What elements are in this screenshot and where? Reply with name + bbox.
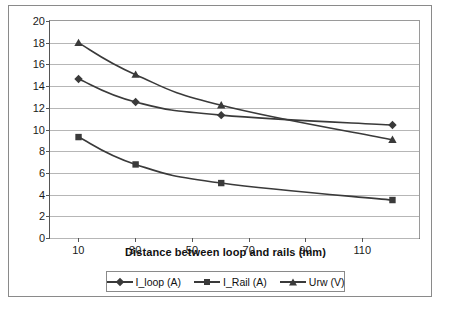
page-bottom-text (10, 304, 310, 309)
ytick-label-16: 16 (33, 59, 45, 70)
legend-label-i-rail: I_Rail (A) (223, 276, 267, 288)
ytick-label-10: 10 (33, 124, 45, 135)
chart-legend: I_loop (A) I_Rail (A) Urw (V) (106, 271, 345, 292)
series-2 (74, 39, 396, 143)
legend-label-urw: Urw (V) (309, 276, 345, 288)
ytick-label-4: 4 (39, 189, 45, 200)
ytick-label-6: 6 (39, 167, 45, 178)
ytick-label-8: 8 (39, 146, 45, 157)
ytick-label-20: 20 (33, 16, 45, 27)
ytick-label-18: 18 (33, 37, 45, 48)
data-series-layer (50, 21, 421, 240)
x-axis-title: Distance between loop and rails (mm) (40, 246, 411, 258)
ytick-label-12: 12 (33, 102, 45, 113)
ytick-label-2: 2 (39, 211, 45, 222)
series-1 (75, 134, 395, 203)
legend-item-urw[interactable]: Urw (V) (280, 276, 345, 288)
ytick-label-14: 14 (33, 81, 45, 92)
series-0 (74, 75, 396, 129)
legend-marker-triangle-icon (280, 277, 306, 287)
legend-item-i-rail[interactable]: I_Rail (A) (194, 276, 267, 288)
legend-marker-square-icon (194, 277, 220, 287)
plot-area: 0 2 4 6 8 10 12 14 16 18 20 10 30 50 70 … (49, 20, 420, 239)
legend-label-i-loop: I_loop (A) (136, 276, 182, 288)
legend-item-i-loop[interactable]: I_loop (A) (107, 276, 182, 288)
ytick-label-0: 0 (39, 233, 45, 244)
legend-marker-diamond-icon (107, 277, 133, 287)
